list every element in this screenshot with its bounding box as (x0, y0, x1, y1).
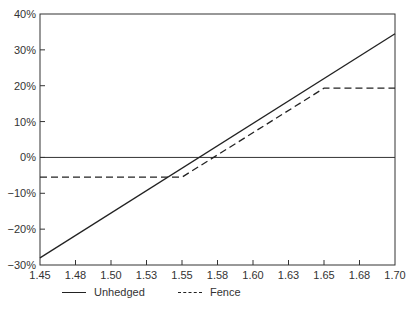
solid-line-swatch-icon (62, 292, 86, 293)
series-unhedged (40, 34, 395, 258)
x-tick-label: 1.63 (278, 269, 299, 281)
plot-frame (40, 14, 395, 265)
line-chart: 40%30%20%10%0%−10%−20%−30% 1.451.481.501… (0, 0, 414, 312)
x-tick-label: 1.68 (349, 269, 370, 281)
y-tick-label: 20% (14, 80, 36, 92)
y-tick-label: 40% (14, 8, 36, 20)
y-tick-label: −20% (8, 223, 37, 235)
x-tick-label: 1.55 (171, 269, 192, 281)
x-tick-label: 1.50 (100, 269, 121, 281)
legend-fence: Fence (178, 286, 241, 298)
x-tick-label: 1.53 (136, 269, 157, 281)
y-axis: 40%30%20%10%0%−10%−20%−30% (8, 8, 45, 271)
legend-label-unhedged: Unhedged (94, 286, 145, 298)
x-axis: 1.451.481.501.531.551.581.601.631.651.68… (29, 260, 405, 281)
legend-label-fence: Fence (210, 286, 241, 298)
x-tick-label: 1.58 (207, 269, 228, 281)
x-tick-label: 1.48 (65, 269, 86, 281)
x-tick-label: 1.65 (313, 269, 334, 281)
y-tick-label: 0% (20, 151, 36, 163)
x-tick-label: 1.70 (384, 269, 405, 281)
series-fence (40, 88, 395, 177)
y-tick-label: 30% (14, 44, 36, 56)
y-tick-label: −10% (8, 187, 37, 199)
legend-unhedged: Unhedged (62, 286, 145, 298)
x-tick-label: 1.45 (29, 269, 50, 281)
x-tick-label: 1.60 (242, 269, 263, 281)
y-tick-label: 10% (14, 116, 36, 128)
dashed-line-swatch-icon (178, 292, 202, 293)
